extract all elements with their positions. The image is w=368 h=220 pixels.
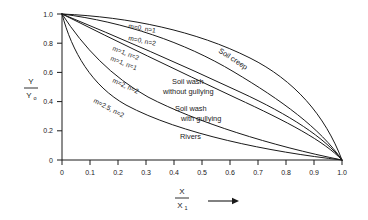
process-label-rivers: Rivers (180, 132, 201, 141)
x-axis-title-subscript: 1 (184, 205, 187, 211)
process-label-soil-wash-with-gullying-line2: with gullying (180, 114, 221, 123)
y-tick-label: 0.8 (43, 40, 53, 47)
hillslope-profile-chart: 0 0.2 0.4 0.6 0.8 1.0 0 0.1 0.2 0.3 0.4 … (0, 0, 368, 220)
y-tick-label: 0.6 (43, 69, 53, 76)
x-tick-label: 0.5 (197, 169, 207, 176)
x-axis-ticks (62, 160, 342, 165)
y-tick-label: 0 (49, 157, 53, 164)
x-axis-title-numerator: X (179, 187, 185, 196)
process-label-soil-wash-without-gullying-line2: without gullying (162, 87, 214, 96)
curve-label-m0-n2: m=0, n=2 (128, 34, 157, 47)
process-labels: Soil creep Soil wash without gullying So… (162, 46, 249, 141)
x-tick-label: 0.7 (253, 169, 263, 176)
curve-label-m0-n1: m=0, n=1 (128, 22, 157, 34)
y-tick-label: 0.2 (43, 127, 53, 134)
x-tick-label: 0.3 (141, 169, 151, 176)
y-tick-label: 0.4 (43, 98, 53, 105)
x-tick-label: 0.2 (113, 169, 123, 176)
y-axis-title-subscript: o (33, 95, 36, 101)
y-axis-ticks (57, 14, 62, 160)
y-axis-tick-labels: 0 0.2 0.4 0.6 0.8 1.0 (43, 11, 53, 164)
curve-label-m2-n2: m=2, n=2 (112, 77, 141, 95)
process-label-soil-wash-with-gullying-line1: Soil wash (175, 104, 207, 113)
x-axis-direction-arrow-icon (208, 198, 239, 204)
x-tick-label: 0.8 (281, 169, 291, 176)
x-tick-label: 0.4 (169, 169, 179, 176)
x-tick-label: 0.9 (309, 169, 319, 176)
curve-label-m2p5-n2: m=2.5, n=2 (93, 97, 126, 119)
x-tick-label: 0.6 (225, 169, 235, 176)
process-label-soil-wash-without-gullying-line1: Soil wash (172, 77, 204, 86)
x-axis-title: X X 1 (175, 187, 189, 211)
x-tick-label: 0 (60, 169, 64, 176)
y-axis-title-denominator: Y (26, 91, 32, 100)
x-axis-title-denominator: X (177, 201, 183, 210)
y-axis-title: Y Y o (24, 77, 38, 101)
x-tick-label: 1.0 (337, 169, 347, 176)
y-axis-title-numerator: Y (28, 77, 34, 86)
y-tick-label: 1.0 (43, 11, 53, 18)
x-axis-tick-labels: 0 0.1 0.2 0.3 0.4 0.5 0.6 0.7 0.8 0.9 1.… (60, 169, 347, 176)
x-tick-label: 0.1 (85, 169, 95, 176)
